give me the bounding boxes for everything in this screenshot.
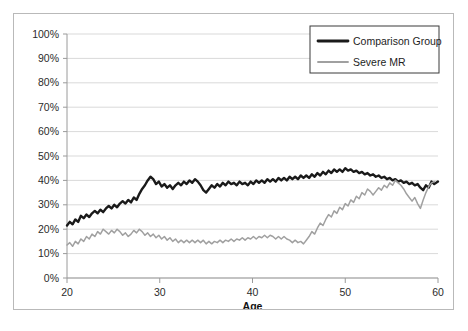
x-axis-tick-label: 60 xyxy=(432,286,444,298)
x-axis-tick-label: 50 xyxy=(339,286,351,298)
legend-label-comparison-group: Comparison Group xyxy=(353,35,442,47)
x-axis-tick-label: 40 xyxy=(247,286,259,298)
x-axis-tick-label: 20 xyxy=(61,286,73,298)
y-axis-tick-label: 70% xyxy=(38,101,59,113)
legend-label-severe-mr: Severe MR xyxy=(353,56,406,68)
line-chart: 0%10%20%30%40%50%60%70%80%90%100%2030405… xyxy=(14,14,453,309)
x-axis-title: Age xyxy=(243,300,263,309)
y-axis-tick-label: 10% xyxy=(38,247,59,259)
y-axis-tick-label: 80% xyxy=(38,76,59,88)
y-axis-tick-label: 30% xyxy=(38,198,59,210)
x-axis-tick-label: 30 xyxy=(154,286,166,298)
y-axis-tick-label: 0% xyxy=(44,272,59,284)
chart-frame: 0%10%20%30%40%50%60%70%80%90%100%2030405… xyxy=(13,13,454,310)
y-axis-tick-label: 100% xyxy=(32,28,59,40)
y-axis-tick-label: 50% xyxy=(38,150,59,162)
y-axis-tick-label: 40% xyxy=(38,174,59,186)
y-axis-tick-label: 90% xyxy=(38,52,59,64)
y-axis-tick-label: 60% xyxy=(38,125,59,137)
series-line-severe-mr xyxy=(67,180,434,246)
y-axis-tick-label: 20% xyxy=(38,223,59,235)
series-line-comparison-group xyxy=(67,168,438,225)
